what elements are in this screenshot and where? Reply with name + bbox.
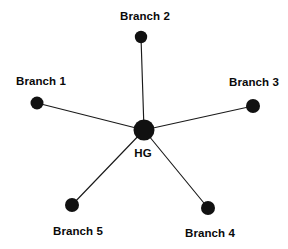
star-topology-diagram: Branch 1Branch 2Branch 3Branch 4Branch 5…: [0, 0, 288, 249]
edge-link: [144, 130, 208, 208]
node-hub[interactable]: [134, 120, 155, 141]
diagram-canvas: [0, 0, 288, 249]
label-branch-5: Branch 5: [53, 225, 103, 238]
node-branch-4[interactable]: [201, 201, 215, 215]
node-branch-1[interactable]: [31, 97, 44, 110]
nodes-group: [31, 31, 261, 215]
edge-link: [144, 106, 253, 130]
label-branch-1: Branch 1: [16, 75, 66, 88]
label-branch-3: Branch 3: [229, 76, 279, 89]
label-hub: HG: [134, 147, 151, 160]
node-branch-3[interactable]: [246, 99, 260, 113]
node-branch-5[interactable]: [65, 198, 79, 212]
edge-link: [72, 130, 144, 205]
edge-link: [37, 103, 144, 130]
node-branch-2[interactable]: [135, 31, 147, 43]
edge-link: [141, 37, 144, 130]
label-branch-4: Branch 4: [185, 227, 235, 240]
label-branch-2: Branch 2: [120, 10, 170, 23]
